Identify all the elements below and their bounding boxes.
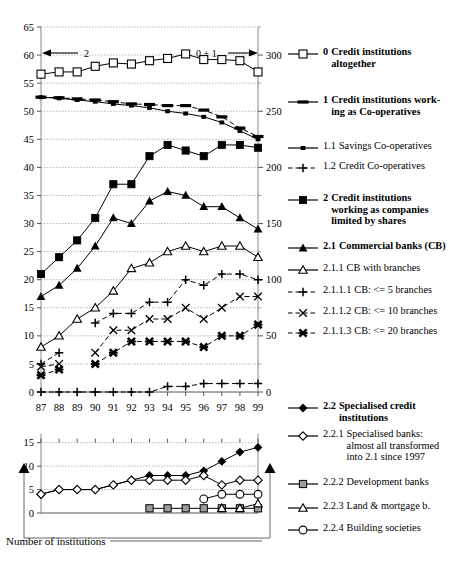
marker-square-filled [182, 147, 189, 154]
legend-item-2.2.2[interactable]: 2.2.2Development banks [286, 476, 429, 489]
legend-number: 2.1.1.3 [323, 325, 351, 337]
legend-item-2.1[interactable]: 2.1Commercial banks (CB) [286, 240, 446, 253]
marker-open-square [91, 62, 99, 70]
legend-symbol-square-filled-icon [286, 193, 320, 205]
marker-diamond-open [236, 476, 244, 484]
marker-plus [299, 288, 307, 296]
marker-thick-dash [162, 104, 173, 107]
marker-small-square-filled [165, 109, 170, 113]
marker-plus [91, 388, 99, 396]
marker-diamond-open [37, 490, 45, 498]
legend-number: 2 [323, 192, 328, 204]
marker-open-square [73, 68, 81, 76]
marker-triangle-filled [145, 196, 154, 204]
marker-square-filled [236, 141, 243, 148]
marker-x-bold [109, 349, 118, 356]
legend-item-1.1[interactable]: 1.1Savings Co-operatives [286, 140, 432, 153]
legend-symbol-diamond-filled-icon [286, 401, 320, 413]
marker-open-square [146, 57, 154, 65]
marker-triangle-filled [163, 187, 172, 195]
x-tick-label: 87 [36, 402, 47, 413]
legend-label: CB: <= 10 branches [354, 305, 437, 317]
marker-x-thin [91, 349, 99, 357]
legend-item-2[interactable]: 2Credit institutions working as companie… [286, 192, 428, 227]
marker-triangle-filled [199, 202, 208, 210]
marker-plus [218, 270, 226, 278]
marker-small-square-filled [301, 146, 306, 150]
marker-x-bold [299, 329, 308, 336]
y-tick-label-right: 50 [266, 330, 277, 341]
legend-item-2.1.1.1[interactable]: 2.1.1.1CB: <= 5 branches [286, 284, 432, 297]
marker-plus [200, 379, 208, 387]
legend-number: 2.2.1 [323, 428, 344, 440]
legend-symbol-triangle-open-icon [286, 501, 320, 513]
marker-plus [145, 298, 153, 306]
legend-symbol-plus-icon [286, 285, 320, 297]
legend-item-0[interactable]: 0Credit institutions altogether [286, 46, 411, 69]
marker-plus [200, 281, 208, 289]
legend-number: 2.2 [323, 400, 336, 412]
marker-thick-dash [216, 115, 227, 118]
series-1 [36, 96, 264, 139]
marker-x-bold [91, 360, 100, 367]
marker-diamond-open [55, 485, 63, 493]
legend-item-2.2[interactable]: 2.2Specialised credit institutions [286, 400, 416, 423]
marker-open-square [37, 70, 45, 78]
marker-circle-open [299, 526, 307, 534]
legend-item-2.1.1.2[interactable]: 2.1.1.2CB: <= 10 branches [286, 305, 437, 318]
marker-diamond-open [218, 481, 226, 489]
legend-item-1.2[interactable]: 1.2Credit Co-operatives [286, 160, 425, 173]
legend-item-2.2.4[interactable]: 2.2.4Building societies [286, 522, 421, 535]
legend-item-2.2.3[interactable]: 2.2.3Land & mortgage b. [286, 500, 430, 513]
right-up-arrow-icon [265, 463, 276, 473]
marker-plus [127, 388, 135, 396]
marker-x-thin [236, 293, 244, 301]
y-tick-label-left: 0 [29, 387, 34, 398]
marker-triangle-filled [217, 202, 226, 210]
marker-open-square [200, 56, 208, 64]
marker-diamond-open [254, 476, 262, 484]
marker-circle-open [200, 495, 208, 503]
x-tick-label: 99 [253, 402, 264, 413]
marker-x-bold [163, 338, 172, 345]
legend-label: Building societies [347, 522, 421, 534]
marker-x-bold [127, 338, 136, 345]
marker-triangle-open [254, 253, 262, 260]
legend-item-2.1.1[interactable]: 2.1.1CB with branches [286, 262, 420, 275]
marker-gray-square [164, 505, 171, 512]
marker-triangle-open [181, 242, 189, 249]
series-2.2 [37, 443, 263, 499]
marker-diamond-filled [236, 448, 245, 457]
marker-open-square [218, 56, 226, 64]
marker-triangle-filled [109, 213, 118, 221]
marker-thick-dash [180, 104, 191, 107]
marker-triangle-open [73, 315, 81, 322]
y-tick-label-left: 15 [24, 302, 35, 313]
marker-gray-square [299, 480, 306, 487]
marker-diamond-open [145, 476, 153, 484]
marker-small-square-filled [111, 102, 116, 106]
marker-square-filled [146, 153, 153, 160]
legend-item-2.2.1[interactable]: 2.2.1Specialised banks: almost all trans… [286, 428, 439, 463]
lower-chart: 051015Number of institutions [0, 425, 286, 563]
legend-label: Specialised credit institutions [339, 400, 416, 423]
series-2.1.1 [37, 242, 262, 350]
legend-symbol-x-bold-icon [286, 326, 320, 338]
legend-label: Credit Co-operatives [339, 160, 425, 172]
x-tick-label: 95 [180, 402, 191, 413]
marker-triangle-open [145, 259, 153, 266]
x-tick-label: 94 [162, 402, 173, 413]
y-tick-label-right: 200 [266, 162, 282, 173]
marker-small-square-filled [75, 98, 80, 102]
legend-item-2.1.1.3[interactable]: 2.1.1.3CB: <= 20 branches [286, 325, 437, 338]
legend-label: Credit institutions working as companies… [331, 192, 428, 227]
legend-symbol-triangle-open-icon [286, 263, 320, 275]
legend-item-1[interactable]: 1Credit institutions work- ing as Co-ope… [286, 94, 440, 117]
marker-small-square-filled [183, 111, 188, 115]
marker-small-square-filled [129, 104, 134, 108]
marker-plus [109, 388, 117, 396]
legend-label: Land & mortgage b. [347, 500, 431, 512]
marker-plus [163, 382, 171, 390]
marker-plus [127, 309, 135, 317]
marker-square-filled [110, 181, 117, 188]
